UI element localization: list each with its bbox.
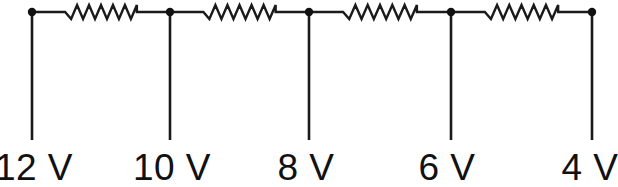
- resistor-2: [170, 5, 309, 19]
- node-dot-1: [28, 8, 36, 16]
- circuit-diagram: 12 V10 V8 V6 V4 V: [0, 0, 618, 187]
- resistor-1: [32, 5, 170, 19]
- node-dot-2: [166, 8, 174, 16]
- node-voltage-label-2: 10 V: [133, 147, 211, 187]
- node-dot-4: [447, 8, 455, 16]
- resistor-4: [451, 5, 592, 19]
- node-labels-layer: 12 V10 V8 V6 V4 V: [0, 147, 618, 187]
- node-dot-3: [305, 8, 313, 16]
- node-leads-layer: [32, 12, 592, 140]
- resistor-3: [309, 5, 451, 19]
- node-voltage-label-3: 8 V: [277, 147, 334, 187]
- node-voltage-label-5: 4 V: [561, 147, 618, 187]
- node-dot-5: [588, 8, 596, 16]
- node-voltage-label-4: 6 V: [418, 147, 475, 187]
- node-voltage-label-1: 12 V: [0, 147, 73, 187]
- circuit-svg-canvas: 12 V10 V8 V6 V4 V: [0, 0, 618, 187]
